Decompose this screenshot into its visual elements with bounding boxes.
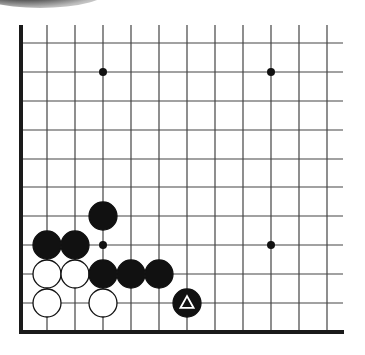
star-point-icon — [267, 68, 275, 76]
black-stone — [61, 231, 89, 259]
board-edges — [19, 25, 344, 334]
star-point-icon — [99, 241, 107, 249]
black-stone — [145, 260, 173, 288]
stones — [33, 202, 201, 317]
black-stone — [117, 260, 145, 288]
white-stone — [33, 260, 61, 288]
go-board — [0, 0, 365, 355]
star-point-icon — [99, 68, 107, 76]
black-stone — [33, 231, 61, 259]
white-stone — [89, 289, 117, 317]
black-stone — [173, 289, 201, 317]
black-stone — [89, 260, 117, 288]
white-stone — [33, 289, 61, 317]
board-canvas — [0, 0, 365, 355]
white-stone — [61, 260, 89, 288]
star-point-icon — [267, 241, 275, 249]
black-stone — [89, 202, 117, 230]
